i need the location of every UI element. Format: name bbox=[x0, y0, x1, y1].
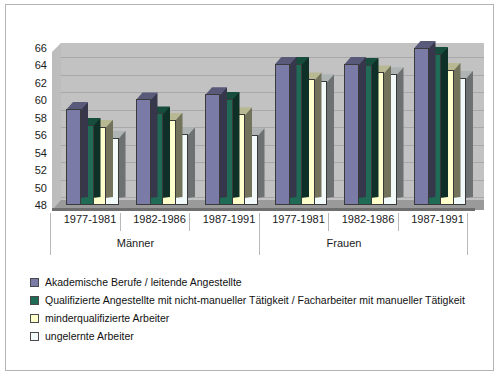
category-separator bbox=[398, 213, 399, 231]
category-separator bbox=[328, 213, 329, 231]
bar-side-face bbox=[358, 57, 366, 198]
category-separator bbox=[189, 213, 190, 231]
bar bbox=[66, 109, 81, 205]
legend-item: Akademische Berufe / leitende Angestellt… bbox=[30, 273, 480, 291]
category-separator bbox=[120, 213, 121, 231]
legend-label: Qualifizierte Angestellte mit nicht-manu… bbox=[45, 294, 465, 306]
bar-front-face bbox=[344, 64, 359, 205]
legend-item: minderqualifizierte Arbeiter bbox=[30, 309, 480, 327]
bar-side-face bbox=[80, 102, 88, 198]
bar-front-face bbox=[414, 48, 429, 205]
bar-side-face bbox=[150, 92, 158, 198]
bar-side-face bbox=[289, 57, 297, 198]
category-separator bbox=[50, 213, 51, 231]
bar-front-face bbox=[66, 109, 81, 205]
x-axis-tick-label: 1982-1986 bbox=[331, 213, 405, 225]
bar-side-face bbox=[396, 67, 404, 198]
category-separator bbox=[467, 213, 468, 231]
x-axis-tick-label: 1977-1981 bbox=[262, 213, 336, 225]
bar-side-face bbox=[326, 74, 334, 198]
bar-side-face bbox=[383, 65, 391, 198]
legend-label: Akademische Berufe / leitende Angestellt… bbox=[45, 276, 242, 288]
bar bbox=[205, 94, 220, 205]
bar-front-face bbox=[136, 99, 151, 205]
bar-side-face bbox=[257, 128, 265, 198]
legend-label: ungelernte Arbeiter bbox=[45, 330, 134, 342]
x-axis-category-labels: 1977-19811982-19861987-19911977-19811982… bbox=[6, 213, 495, 233]
category-separator bbox=[259, 213, 260, 231]
bar-front-face bbox=[275, 64, 290, 205]
bar bbox=[136, 99, 151, 205]
bar-side-face bbox=[301, 57, 309, 198]
x-axis-tick-label: 1987-1991 bbox=[401, 213, 475, 225]
bar bbox=[414, 48, 429, 205]
legend-item: ungelernte Arbeiter bbox=[30, 327, 480, 345]
group-separator bbox=[50, 231, 51, 255]
bar-side-face bbox=[219, 87, 227, 198]
bar-side-face bbox=[440, 47, 448, 198]
bar-side-face bbox=[118, 131, 126, 198]
bar-side-face bbox=[465, 71, 473, 198]
bar-side-face bbox=[232, 92, 240, 198]
legend-label: minderqualifizierte Arbeiter bbox=[45, 312, 169, 324]
x-axis-group-labels: MännerFrauen bbox=[6, 237, 495, 257]
legend-swatch bbox=[30, 278, 39, 287]
bar-side-face bbox=[428, 41, 436, 198]
bar-side-face bbox=[453, 63, 461, 198]
group-separator bbox=[259, 231, 260, 255]
bar bbox=[275, 64, 290, 205]
legend-swatch bbox=[30, 314, 39, 323]
x-axis-tick-label: 1982-1986 bbox=[123, 213, 197, 225]
bar-side-face bbox=[244, 107, 252, 198]
bar-side-face bbox=[175, 113, 183, 198]
bar-front-face bbox=[205, 94, 220, 205]
group-separator bbox=[467, 231, 468, 255]
x-axis-tick-label: 1977-1981 bbox=[53, 213, 127, 225]
bar-side-face bbox=[314, 72, 322, 198]
x-axis-group-label: Männer bbox=[86, 237, 186, 249]
chart-frame: 48505254565860626466 1977-19811982-19861… bbox=[5, 4, 494, 371]
legend-swatch bbox=[30, 332, 39, 341]
x-axis-group-label: Frauen bbox=[294, 237, 394, 249]
bar-side-face bbox=[105, 120, 113, 199]
bar-side-face bbox=[187, 127, 195, 198]
legend-item: Qualifizierte Angestellte mit nicht-manu… bbox=[30, 291, 480, 309]
bar-side-face bbox=[93, 118, 101, 198]
bar-side-face bbox=[162, 106, 170, 198]
bar-side-face bbox=[371, 58, 379, 198]
bar bbox=[344, 64, 359, 205]
legend-swatch bbox=[30, 296, 39, 305]
chart-legend: Akademische Berufe / leitende Angestellt… bbox=[30, 273, 480, 345]
x-axis-tick-label: 1987-1991 bbox=[192, 213, 266, 225]
